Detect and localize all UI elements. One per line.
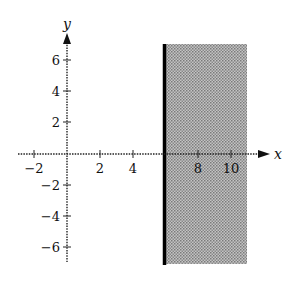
x-tick-label: 4 (129, 161, 137, 176)
y-tick-label: 6 (52, 53, 60, 68)
x-axis-arrow-icon (258, 150, 270, 158)
x-axis-label: x (274, 146, 282, 162)
y-tick-label: −6 (41, 240, 60, 255)
x-tick-label: −2 (24, 161, 43, 176)
inequality-graph: −2 2 4 8 10 6 4 2 −2 −4 −6 x y (0, 0, 291, 284)
y-tick-label: 4 (52, 84, 60, 99)
x-tick-label: 8 (194, 161, 202, 176)
y-axis-arrow-icon (63, 33, 71, 44)
y-tick-label: −2 (41, 178, 60, 193)
y-axis-label: y (62, 16, 72, 32)
x-tick-label: 10 (223, 161, 240, 176)
y-tick-label: 2 (52, 115, 60, 130)
y-tick-label: −4 (41, 209, 60, 224)
x-tick-label: 2 (96, 161, 104, 176)
